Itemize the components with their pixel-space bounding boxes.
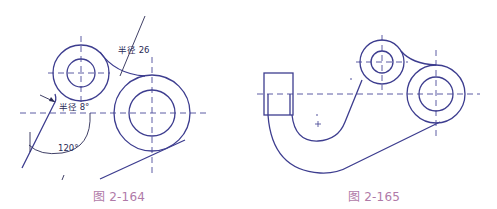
centerlines	[257, 35, 480, 138]
dot-mark	[350, 78, 352, 80]
label-radius-8: 半径 8°	[59, 102, 89, 112]
label-radius-26: 半径 26	[118, 45, 150, 55]
caption-fig-2-165: 图 2-165	[348, 187, 400, 204]
connecting-arc	[401, 51, 436, 65]
center-mark	[315, 121, 321, 127]
dot-mark	[316, 114, 318, 116]
drawing-canvas: 半径 26 半径 8° 120°	[0, 0, 497, 209]
hook-inner-curve	[292, 80, 362, 141]
label-angle-120: 120°	[58, 143, 78, 153]
figure-2-165	[257, 35, 480, 173]
tangent-arc-r26	[100, 52, 145, 76]
caption-fig-2-164: 图 2-164	[93, 187, 145, 204]
arrowhead-r8	[49, 97, 55, 102]
figure-2-164: 半径 26 半径 8° 120°	[20, 16, 208, 180]
stray-mark	[62, 175, 64, 180]
left-tangent-line	[22, 94, 56, 168]
bottom-tangent-line	[100, 140, 185, 179]
